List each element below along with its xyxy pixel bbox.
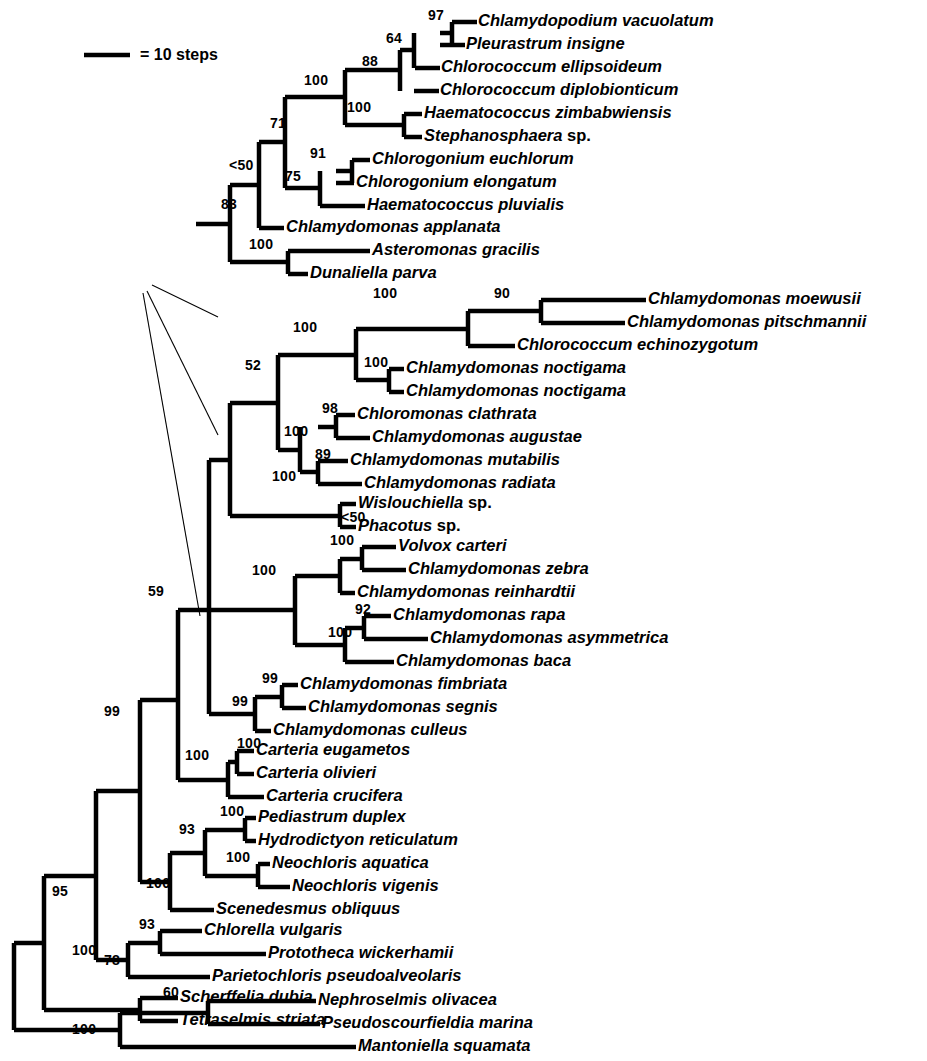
support-value-label: 52	[245, 357, 261, 373]
taxon-rank-suffix: sp.	[432, 516, 460, 534]
taxon-name-label: Pediastrum duplex	[258, 807, 406, 825]
taxon-name-label: Neochloris aquatica	[272, 853, 429, 871]
taxon-name-label: Chlorogonium euchlorum	[372, 149, 574, 167]
support-value-label: 99	[104, 703, 120, 719]
support-value-label: 100	[249, 236, 273, 252]
taxon-name-label: Pseudoscourfieldia marina	[322, 1013, 533, 1031]
support-value-label: 100	[252, 562, 276, 578]
taxon-name-label: Chlamydomonas asymmetrica	[430, 628, 668, 646]
support-value-label: 91	[310, 145, 326, 161]
taxon-name-label: Tetraselmis striata	[180, 1010, 325, 1028]
taxon-name-label: Chlamydomonas rapa	[393, 605, 565, 623]
support-value-label: 89	[315, 446, 331, 462]
taxon-name-label: Chlamydomonas moewusii	[648, 289, 861, 307]
support-value-label: 93	[139, 916, 155, 932]
support-value-label: 100	[364, 354, 388, 370]
taxon-name-label: Asteromonas gracilis	[371, 240, 540, 258]
support-value-label: 98	[322, 400, 338, 416]
support-value-label: 64	[386, 30, 402, 46]
support-value-label: 100	[272, 468, 296, 484]
support-value-label: 95	[52, 883, 68, 899]
taxon-name-label: Chlamydomonas noctigama	[406, 381, 626, 399]
taxon-name-label: Chlamydomonas culleus	[273, 720, 467, 738]
taxon-rank-suffix: sp.	[463, 493, 491, 511]
support-value-label: 100	[328, 624, 352, 640]
support-value-label: 78	[104, 952, 120, 968]
support-value-label: 100	[185, 747, 209, 763]
support-value-label: 99	[232, 693, 248, 709]
taxon-name-label: Nephroselmis olivacea	[318, 990, 497, 1008]
taxon-name-label: Chlamydopodium vacuolatum	[478, 11, 714, 29]
taxon-name-label: Chlamydomonas pitschmannii	[627, 312, 867, 330]
taxon-name-label: Haematococcus zimbabwiensis	[424, 103, 672, 121]
taxon-name-label: Parietochloris pseudoalveolaris	[212, 966, 461, 984]
taxon-name-label: Chlorococcum echinozygotum	[517, 335, 758, 353]
support-value-label: 59	[148, 583, 164, 599]
taxon-name-label: Chlamydomonas noctigama	[406, 358, 626, 376]
support-value-label: 100	[330, 532, 354, 548]
taxon-name-label: Dunaliella parva	[310, 263, 437, 281]
taxon-name-label: Chlamydomonas radiata	[364, 473, 556, 491]
support-value-label: 100	[347, 99, 371, 115]
taxon-name-label: Wislouchiella sp.	[358, 493, 492, 511]
taxon-name-label: Scenedesmus obliquus	[216, 899, 400, 917]
support-value-label: 100	[304, 72, 328, 88]
support-value-label: 100	[373, 285, 397, 301]
support-value-label: 100	[220, 803, 244, 819]
support-value-label: 71	[270, 115, 286, 131]
support-value-label: 100	[72, 1021, 96, 1037]
scale-bar-label: = 10 steps	[140, 46, 218, 63]
taxon-name-label: Chlamydomonas reinhardtii	[357, 582, 576, 600]
support-value-label: 100	[284, 423, 308, 439]
support-value-label: 90	[494, 285, 510, 301]
taxon-name-label: Chlamydomonas applanata	[286, 217, 501, 235]
taxon-name-label: Volvox carteri	[398, 536, 507, 554]
taxon-name-label: Chlorococcum ellipsoideum	[441, 57, 662, 75]
taxon-name-label: Haematococcus pluvialis	[367, 195, 564, 213]
taxon-name-label: Hydrodictyon reticulatum	[258, 830, 458, 848]
taxon-rank-suffix: sp.	[562, 126, 590, 144]
support-value-label: 83	[221, 196, 237, 212]
support-value-label: 92	[355, 601, 371, 617]
taxon-name-label: Carteria eugametos	[256, 740, 410, 758]
support-value-label: 99	[262, 670, 278, 686]
taxon-name-label: Carteria olivieri	[256, 763, 377, 781]
taxon-name-label: Chlorococcum diplobionticum	[440, 80, 678, 98]
taxon-name-label: Chlorogonium elongatum	[356, 172, 557, 190]
support-value-label: 100	[146, 875, 170, 891]
support-value-label: <50	[229, 157, 254, 173]
support-value-label: 97	[428, 7, 444, 23]
taxon-name-label: Pleurastrum insigne	[466, 34, 625, 52]
taxon-name-label: Chlamydomonas zebra	[408, 559, 589, 577]
taxon-name-label: Chlamydomonas mutabilis	[350, 450, 560, 468]
tree-canvas: 976488100100917571<508310090100100100981…	[0, 0, 927, 1061]
support-value-label: 93	[179, 821, 195, 837]
support-value-label: 100	[226, 849, 250, 865]
taxon-name-label: Chlamydomonas fimbriata	[300, 674, 507, 692]
taxon-name-label: Scherffelia dubia	[180, 987, 313, 1005]
taxon-name-label: Chlorella vulgaris	[204, 920, 342, 938]
taxon-name-label: Chloromonas clathrata	[357, 404, 537, 422]
taxon-name-label: Phacotus sp.	[358, 516, 461, 534]
taxon-name-label: Prototheca wickerhamii	[268, 943, 454, 961]
taxon-name-label: Chlamydomonas augustae	[372, 427, 582, 445]
support-value-label: 100	[72, 942, 96, 958]
taxon-name-label: Carteria crucifera	[266, 786, 403, 804]
phylogenetic-tree-figure: 976488100100917571<508310090100100100981…	[0, 0, 927, 1061]
taxon-name-label: Stephanosphaera sp.	[424, 126, 591, 144]
taxon-name-label: Chlamydomonas segnis	[308, 697, 498, 715]
support-value-label: 100	[293, 319, 317, 335]
taxon-name-label: Mantoniella squamata	[358, 1036, 530, 1054]
support-value-label: 88	[362, 53, 378, 69]
support-value-label: 75	[285, 168, 301, 184]
taxon-name-label: Chlamydomonas baca	[396, 651, 571, 669]
support-value-label: 60	[163, 984, 179, 1000]
taxon-name-label: Neochloris vigenis	[292, 876, 439, 894]
